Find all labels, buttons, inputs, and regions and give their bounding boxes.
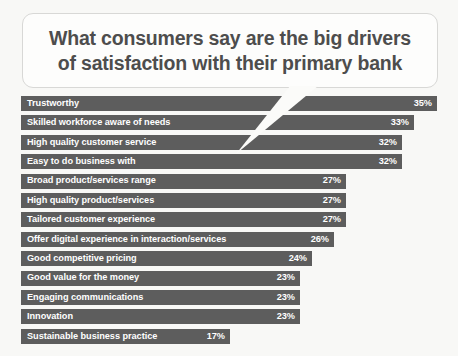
bar-row: Skilled workforce aware of needs33% [21, 115, 414, 130]
bar-row: Good competitive pricing24% [21, 251, 312, 266]
bar-label: Good competitive pricing [27, 254, 137, 263]
bar-value: 23% [277, 293, 295, 302]
bar-label: Broad product/services range [27, 176, 156, 185]
bar-row: Trustworthy35% [21, 96, 437, 111]
bar-label: Good value for the money [27, 273, 139, 282]
bar-label: Offer digital experience in interaction/… [27, 235, 226, 244]
bar-row: Offer digital experience in interaction/… [21, 232, 334, 247]
bar-row: High quality product/services27% [21, 193, 346, 208]
bar-value: 33% [391, 118, 409, 127]
bar-row: Sustainable business practice17% [21, 329, 230, 344]
page-title: What consumers say are the big drivers o… [35, 26, 425, 76]
bar-label: High quality customer service [27, 138, 156, 147]
bar-value: 26% [311, 235, 329, 244]
bar-value: 27% [323, 196, 341, 205]
bar-value: 27% [323, 176, 341, 185]
bar-value: 32% [379, 138, 397, 147]
bar-row: Tailored customer experience27% [21, 212, 346, 227]
bar-row: Good value for the money23% [21, 271, 300, 286]
bar-row: Innovation23% [21, 309, 300, 324]
bar-row: Broad product/services range27% [21, 174, 346, 189]
title-callout: What consumers say are the big drivers o… [22, 13, 438, 88]
bar-label: High quality product/services [27, 196, 154, 205]
bar-label: Skilled workforce aware of needs [27, 118, 170, 127]
bar-chart: Trustworthy35%Skilled workforce aware of… [0, 96, 458, 354]
bar-row: Easy to do business with32% [21, 154, 402, 169]
chart-canvas: What consumers say are the big drivers o… [0, 0, 458, 356]
bar-value: 35% [414, 99, 432, 108]
bar-row: High quality customer service32% [21, 135, 402, 150]
bar-value: 17% [207, 332, 225, 341]
bar-label: Easy to do business with [27, 157, 136, 166]
bar-label: Engaging communications [27, 293, 143, 302]
bar-label: Trustworthy [27, 99, 79, 108]
bar-value: 24% [289, 254, 307, 263]
bar-label: Innovation [27, 312, 73, 321]
bar-label: Tailored customer experience [27, 215, 155, 224]
bar-value: 23% [277, 273, 295, 282]
bar-row: Engaging communications23% [21, 290, 300, 305]
bar-value: 23% [277, 312, 295, 321]
bar-value: 32% [379, 157, 397, 166]
bar-label: Sustainable business practice [27, 332, 157, 341]
bar-value: 27% [323, 215, 341, 224]
